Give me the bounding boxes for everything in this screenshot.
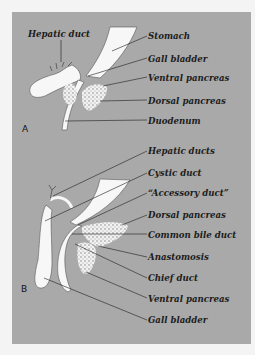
dorsal-pancreas-a — [82, 84, 107, 110]
label-ventral-pancreas-b: Ventral pancreas — [148, 294, 229, 304]
ventral-pancreas-a — [63, 83, 77, 105]
label-chief-duct-b: Chief duct — [148, 273, 198, 283]
label-ventral-pancreas-a: Ventral pancreas — [148, 73, 229, 83]
label-gall-bladder-a: Gall bladder — [148, 54, 207, 64]
label-duodenum-a: Duodenum — [148, 116, 201, 126]
panel-letter-b: B — [21, 284, 27, 294]
label-cystic-duct-b: Cystic duct — [148, 168, 202, 178]
ventral-pancreas-b — [77, 242, 96, 274]
stomach-b — [70, 179, 130, 225]
panel-a-drawing — [30, 27, 147, 130]
label-anastomosis-b: Anastomosis — [148, 252, 209, 262]
label-hepatic-duct-a: Hepatic duct — [28, 29, 90, 39]
label-accessory-duct-b: “Accessory duct” — [148, 188, 229, 198]
gall-bladder-b — [35, 205, 52, 288]
panel-b-drawing — [35, 151, 147, 320]
label-hepatic-ducts-b: Hepatic ducts — [148, 146, 215, 156]
stomach-a — [86, 27, 137, 78]
label-gall-bladder-b: Gall bladder — [148, 315, 207, 325]
label-stomach-a: Stomach — [148, 31, 190, 41]
label-dorsal-pancreas-b: Dorsal pancreas — [148, 210, 226, 220]
label-dorsal-pancreas-a: Dorsal pancreas — [148, 96, 226, 106]
label-common-bile-duct-b: Common bile duct — [148, 230, 236, 240]
panel-letter-a: A — [22, 124, 28, 134]
